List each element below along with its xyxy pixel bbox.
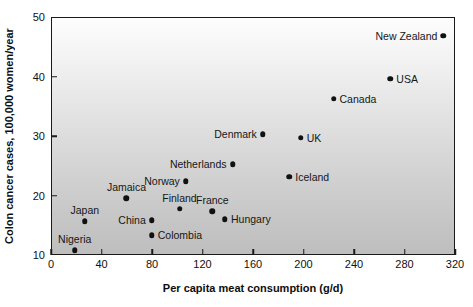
data-point-label: UK	[307, 132, 322, 143]
y-axis-tick	[51, 76, 57, 78]
x-axis-tick-label: 40	[95, 258, 107, 270]
data-point	[149, 218, 155, 224]
plot-area: NigeriaJapanChinaColombiaJamaicaFinlandN…	[51, 17, 455, 255]
y-axis-title: Colon cancer cases, 100,000 women/year	[2, 17, 16, 255]
x-axis-tick	[202, 249, 204, 255]
x-axis-tick	[353, 249, 355, 255]
data-point-label: Nigeria	[58, 234, 91, 245]
y-axis-tick-label: 40	[33, 71, 45, 83]
data-point	[298, 135, 304, 141]
data-point-label: Canada	[340, 94, 377, 105]
x-axis-tick	[303, 249, 305, 255]
data-point-label: Japan	[71, 205, 100, 216]
scatter-chart-figure: Colon cancer cases, 100,000 women/year N…	[0, 0, 473, 307]
data-point	[82, 219, 88, 225]
data-point-label: Denmark	[214, 129, 257, 140]
x-axis-tick	[454, 249, 456, 255]
y-axis-tick-label: 20	[33, 190, 45, 202]
x-axis-tick-label: 160	[244, 258, 262, 270]
x-axis-tick-label: 240	[345, 258, 363, 270]
y-axis-tick-label: 10	[33, 249, 45, 261]
x-axis-tick-label: 320	[446, 258, 464, 270]
x-axis-tick-label: 200	[294, 258, 312, 270]
x-axis-tick	[252, 249, 254, 255]
data-point	[331, 96, 337, 102]
x-axis-tick	[101, 249, 103, 255]
x-axis-tick-label: 0	[48, 258, 54, 270]
data-point	[149, 232, 155, 238]
x-axis-tick-label: 120	[193, 258, 211, 270]
data-point-label: Iceland	[295, 172, 329, 183]
x-axis-tick	[404, 249, 406, 255]
data-point-label: Finland	[162, 192, 196, 203]
x-axis-tick	[151, 249, 153, 255]
data-point	[222, 216, 228, 222]
data-point-label: Hungary	[231, 214, 271, 225]
data-point-label: Colombia	[158, 230, 202, 241]
x-axis-tick	[50, 249, 52, 255]
data-point	[230, 162, 236, 168]
x-axis-title: Per capita meat consumption (g/d)	[51, 282, 455, 294]
data-point	[183, 178, 189, 184]
data-point	[287, 174, 293, 180]
y-axis-tick-label: 30	[33, 130, 45, 142]
data-point	[441, 33, 447, 39]
data-point-label: USA	[396, 73, 418, 84]
data-point-label: Norway	[144, 176, 180, 187]
y-axis-tick	[51, 195, 57, 197]
data-point-label: France	[196, 195, 229, 206]
y-axis-tick-label: 50	[33, 11, 45, 23]
data-point	[177, 206, 183, 212]
data-point	[210, 209, 216, 215]
data-point	[260, 131, 266, 137]
data-point	[388, 76, 394, 82]
data-point	[72, 247, 78, 253]
data-point-label: Jamaica	[107, 182, 146, 193]
x-axis-tick-label: 280	[395, 258, 413, 270]
data-point-label: New Zealand	[376, 31, 438, 42]
data-point-label: China	[118, 215, 145, 226]
data-point-label: Netherlands	[170, 159, 227, 170]
x-axis-tick-label: 80	[146, 258, 158, 270]
y-axis-tick	[51, 135, 57, 137]
data-point	[124, 196, 130, 202]
